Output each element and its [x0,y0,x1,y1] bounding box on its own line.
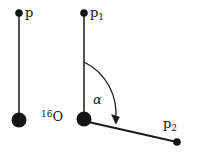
label-outgoing-momentum-p1: p1 [90,6,104,22]
label-incident-momentum-p: p [25,6,33,19]
label-mass-number: 16 [41,109,52,119]
label-p1-subscript: 1 [98,12,104,22]
label-element-symbol: O [52,109,63,124]
nucleus-dot-left [12,113,27,128]
nucleus-dot-vertex [77,112,92,127]
vector-p1-tip-dot [80,9,88,17]
label-oxygen-16-nucleus: 16O [41,110,63,123]
vector-p2-tip-dot [173,138,181,146]
angle-arc-arrowhead [112,115,120,125]
vector-p-tip-dot [15,9,23,17]
momentum-vector-diagram: p p1 p2 16O α [0,0,198,156]
label-outgoing-momentum-p2: p2 [163,117,177,133]
diagram-canvas [0,0,198,156]
label-p-base: p [25,5,33,20]
left-panel-group [12,9,27,127]
label-p2-subscript: 2 [171,123,177,133]
label-scattering-angle-alpha: α [93,93,102,106]
